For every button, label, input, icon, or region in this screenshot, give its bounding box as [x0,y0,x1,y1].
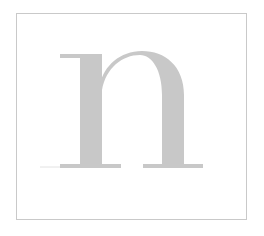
glyph-shape [60,51,203,168]
letter-n-glyph [0,0,264,236]
